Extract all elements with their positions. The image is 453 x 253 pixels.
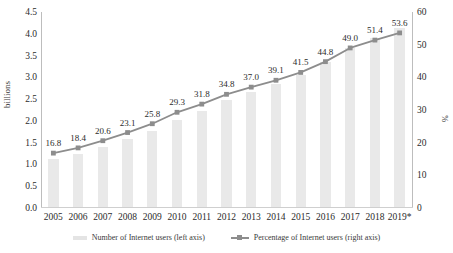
line-marker bbox=[125, 130, 130, 135]
y-axis-left-tick: 2.0 bbox=[25, 116, 37, 126]
data-label: 49.0 bbox=[342, 33, 358, 43]
line-marker bbox=[224, 92, 229, 97]
x-axis-tick: 2014 bbox=[266, 212, 285, 222]
data-label: 37.0 bbox=[243, 72, 259, 82]
x-axis-tick: 2013 bbox=[242, 212, 261, 222]
x-axis-tick: 2007 bbox=[93, 212, 112, 222]
legend-bar-swatch-icon bbox=[73, 236, 87, 240]
x-axis-tick: 2017 bbox=[341, 212, 360, 222]
chart-legend: Number of Internet users (left axis) Per… bbox=[0, 233, 453, 242]
x-axis-tick: 2008 bbox=[118, 212, 137, 222]
data-label: 31.8 bbox=[194, 89, 210, 99]
line-marker bbox=[298, 70, 303, 75]
data-label: 25.8 bbox=[144, 109, 160, 119]
y-axis-right-tick: 10 bbox=[417, 170, 427, 180]
legend-label-bars: Number of Internet users (left axis) bbox=[92, 233, 205, 242]
y-axis-right-tick: 40 bbox=[417, 72, 427, 82]
x-axis-tick: 2010 bbox=[168, 212, 187, 222]
line-marker bbox=[397, 31, 402, 36]
y-axis-right-title: % bbox=[441, 115, 450, 122]
y-axis-left-tick: 4.0 bbox=[25, 29, 37, 39]
x-axis-tick: 2012 bbox=[217, 212, 236, 222]
line-marker bbox=[199, 102, 204, 107]
y-axis-left-tick: 4.5 bbox=[25, 7, 37, 17]
data-label: 23.1 bbox=[120, 118, 136, 128]
x-axis-tick: 2005 bbox=[44, 212, 63, 222]
data-label: 18.4 bbox=[70, 133, 86, 143]
legend-item-line: Percentage of Internet users (right axis… bbox=[231, 233, 380, 242]
x-axis-tick: 2019* bbox=[388, 212, 412, 222]
y-axis-right-tick: 30 bbox=[417, 105, 427, 115]
line-marker bbox=[175, 110, 180, 115]
y-axis-left-tick: 2.5 bbox=[25, 94, 37, 104]
data-label: 41.5 bbox=[293, 57, 309, 67]
line-marker bbox=[323, 59, 328, 64]
data-label: 16.8 bbox=[45, 138, 61, 148]
line-marker bbox=[51, 151, 56, 156]
y-axis-left-tick: 0.0 bbox=[25, 203, 37, 213]
data-label: 44.8 bbox=[318, 47, 334, 57]
y-axis-right-tick: 60 bbox=[417, 7, 427, 17]
line-marker bbox=[76, 145, 81, 150]
legend-line-swatch-icon bbox=[231, 234, 249, 241]
data-label: 20.6 bbox=[95, 126, 111, 136]
x-axis-tick: 2016 bbox=[316, 212, 335, 222]
plot-area: 0.00.51.01.52.02.53.03.54.04.5 010203040… bbox=[41, 12, 412, 208]
data-label: 34.8 bbox=[219, 79, 235, 89]
legend-item-bars: Number of Internet users (left axis) bbox=[73, 233, 205, 242]
y-axis-left-title: billions bbox=[2, 81, 12, 108]
data-label: 29.3 bbox=[169, 97, 185, 107]
x-axis-tick: 2006 bbox=[69, 212, 88, 222]
y-axis-right-tick: 0 bbox=[417, 203, 422, 213]
line-marker bbox=[249, 85, 254, 90]
x-axis-tick: 2009 bbox=[143, 212, 162, 222]
y-axis-right-tick: 20 bbox=[417, 138, 427, 148]
x-axis-tick: 2015 bbox=[291, 212, 310, 222]
chart-container: billions % 0.00.51.01.52.02.53.03.54.04.… bbox=[0, 0, 453, 253]
line-marker bbox=[348, 46, 353, 51]
y-axis-left-tick: 1.0 bbox=[25, 159, 37, 169]
line-marker bbox=[373, 38, 378, 43]
data-label: 39.1 bbox=[268, 65, 284, 75]
y-axis-left-tick: 1.5 bbox=[25, 138, 37, 148]
line-marker bbox=[100, 138, 105, 143]
x-axis-tick: 2011 bbox=[192, 212, 211, 222]
y-axis-right-tick: 50 bbox=[417, 40, 427, 50]
line-marker bbox=[150, 121, 155, 126]
x-axis-tick: 2018 bbox=[365, 212, 384, 222]
y-axis-right-line bbox=[412, 12, 413, 208]
y-axis-left-tick: 0.5 bbox=[25, 181, 37, 191]
y-axis-left-tick: 3.5 bbox=[25, 51, 37, 61]
data-label: 53.6 bbox=[392, 18, 408, 28]
data-label: 51.4 bbox=[367, 25, 383, 35]
y-axis-left-tick: 3.0 bbox=[25, 72, 37, 82]
legend-label-line: Percentage of Internet users (right axis… bbox=[254, 233, 380, 242]
line-marker bbox=[274, 78, 279, 83]
